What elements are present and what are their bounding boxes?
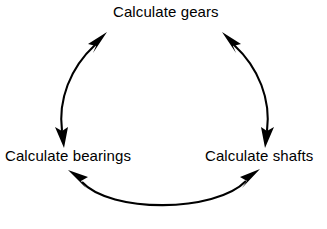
node-calculate-gears: Calculate gears [113,4,219,20]
edge-gears-bearings [55,32,107,148]
edge-bearings-shafts-curve [82,181,246,205]
node-calculate-shafts: Calculate shafts [205,148,313,164]
diagram-canvas [0,0,327,229]
edge-shafts-gears [222,32,274,148]
edge-bearings-shafts [68,169,260,205]
cycle-diagram: Calculate gears Calculate bearings Calcu… [0,0,327,229]
node-calculate-bearings: Calculate bearings [5,148,131,164]
edge-shafts-gears-curve [234,45,268,131]
edge-gears-bearings-curve [61,45,95,131]
